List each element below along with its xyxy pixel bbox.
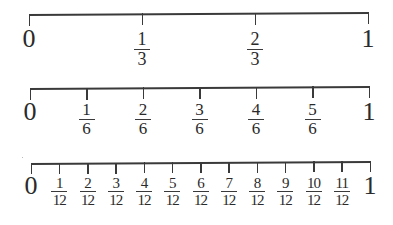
denominator: 12 xyxy=(251,193,264,207)
numerator: 1 xyxy=(56,176,63,190)
tick-mark xyxy=(228,162,230,173)
denominator: 12 xyxy=(53,193,66,207)
numerator: 1 xyxy=(82,102,91,118)
tick-mark xyxy=(143,87,145,99)
fraction-label: 36 xyxy=(192,102,208,137)
fraction-label: 212 xyxy=(80,176,96,207)
numerator: 3 xyxy=(195,102,204,118)
label-one: 1 xyxy=(362,26,375,52)
numerator: 7 xyxy=(226,176,233,190)
fraction-label: 412 xyxy=(136,176,152,207)
denominator: 12 xyxy=(166,193,179,207)
denominator: 6 xyxy=(139,121,148,137)
fraction-label: 23 xyxy=(247,31,263,68)
numerator: 4 xyxy=(141,176,148,190)
tick-mark xyxy=(313,161,315,172)
tick-mark xyxy=(255,13,257,25)
denominator: 12 xyxy=(138,193,151,207)
fraction-label: 1012 xyxy=(306,176,322,207)
denominator: 3 xyxy=(251,51,260,68)
fraction-label: 13 xyxy=(134,31,150,68)
numerator: 6 xyxy=(197,176,204,190)
denominator: 6 xyxy=(195,121,204,137)
fraction-label: 1112 xyxy=(334,176,350,207)
numerator: 4 xyxy=(252,102,261,118)
denominator: 6 xyxy=(308,121,317,137)
fraction-label: 312 xyxy=(108,176,124,207)
numerator: 8 xyxy=(254,176,261,190)
tick-mark xyxy=(199,87,201,99)
axis-line xyxy=(29,12,368,15)
numerator: 3 xyxy=(113,176,120,190)
tick-mark xyxy=(312,86,314,98)
tick-mark xyxy=(257,162,259,173)
label-zero: 0 xyxy=(25,173,38,199)
tick-mark xyxy=(200,162,202,173)
tick-mark xyxy=(285,162,287,173)
fraction-label: 712 xyxy=(221,176,237,207)
denominator: 12 xyxy=(109,193,122,207)
numerator: 1 xyxy=(138,31,147,48)
label-one: 1 xyxy=(364,173,377,199)
label-zero: 0 xyxy=(23,26,36,52)
denominator: 6 xyxy=(82,121,91,137)
numerator: 5 xyxy=(169,176,176,190)
tick-mark xyxy=(341,161,343,172)
numerator: 11 xyxy=(336,176,348,190)
label-one: 1 xyxy=(363,99,376,125)
tick-mark xyxy=(87,163,89,174)
scan-speck xyxy=(22,157,23,158)
tick-mark xyxy=(86,88,88,100)
numerator: 10 xyxy=(307,176,320,190)
denominator: 12 xyxy=(335,193,348,207)
numerator: 5 xyxy=(308,102,317,118)
fraction-label: 612 xyxy=(193,176,209,207)
tick-mark xyxy=(115,163,117,174)
denominator: 3 xyxy=(138,51,147,68)
fraction-label: 46 xyxy=(248,102,264,137)
denominator: 12 xyxy=(307,193,320,207)
fraction-label: 112 xyxy=(51,176,67,207)
numerator: 9 xyxy=(282,176,289,190)
label-zero: 0 xyxy=(24,99,37,125)
denominator: 12 xyxy=(81,193,94,207)
tick-mark xyxy=(59,163,61,174)
tick-mark xyxy=(142,13,144,25)
denominator: 12 xyxy=(279,193,292,207)
tick-mark xyxy=(172,162,174,173)
fraction-label: 912 xyxy=(277,176,293,207)
tick-mark xyxy=(368,12,370,24)
numerator: 2 xyxy=(139,102,148,118)
fraction-label: 16 xyxy=(79,102,95,137)
fraction-label: 812 xyxy=(249,176,265,207)
tick-mark xyxy=(256,87,258,99)
fraction-label: 26 xyxy=(135,102,151,137)
numerator: 2 xyxy=(84,176,91,190)
fraction-label: 512 xyxy=(164,176,180,207)
fraction-label: 56 xyxy=(305,102,321,137)
denominator: 6 xyxy=(252,121,261,137)
tick-mark xyxy=(144,162,146,173)
denominator: 12 xyxy=(194,193,207,207)
denominator: 12 xyxy=(222,193,235,207)
numerator: 2 xyxy=(251,31,260,48)
